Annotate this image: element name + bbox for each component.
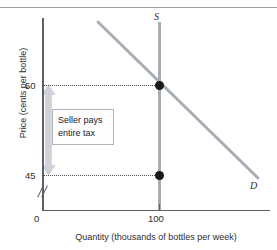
y-axis-break-icon <box>36 185 50 199</box>
y-tick-label-45: 45 <box>25 170 36 181</box>
leader-line-price-45 <box>43 175 161 176</box>
x-tick-label-0: 0 <box>34 213 39 224</box>
supply-curve-label: S <box>154 11 159 22</box>
callout-line-2: entire tax <box>58 127 109 140</box>
x-tick-mark-100 <box>159 204 160 210</box>
data-point-price-50 <box>155 81 164 90</box>
callout-line-1: Seller pays <box>58 114 109 127</box>
figure-canvas: S D 50 45 0 100 Price (cents per bottle)… <box>0 0 277 250</box>
data-point-price-45 <box>155 171 164 180</box>
leader-line-price-50 <box>43 85 161 86</box>
y-axis-title: Price (cents per bottle) <box>18 28 28 158</box>
x-axis-line <box>42 210 270 212</box>
demand-curve <box>98 22 258 178</box>
x-axis-title: Quantity (thousands of bottles per week) <box>42 232 270 242</box>
demand-curve-label: D <box>250 180 257 191</box>
x-tick-label-100: 100 <box>148 213 164 224</box>
y-axis-line <box>42 18 44 211</box>
supply-curve <box>158 22 161 210</box>
tax-incidence-callout: Seller pays entire tax <box>52 109 114 145</box>
